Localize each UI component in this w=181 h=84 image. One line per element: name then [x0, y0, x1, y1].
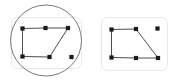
graph-node: [109, 27, 113, 31]
graph-node-isolated: [69, 55, 73, 59]
graph-panel-plain: [102, 18, 168, 71]
graph-edge: [112, 29, 137, 30]
graph-node: [66, 26, 70, 30]
graph-node: [20, 54, 24, 58]
graph-node: [43, 26, 47, 30]
graph-node: [134, 56, 138, 60]
graph-edge: [23, 28, 46, 29]
graph-edge: [112, 58, 137, 59]
graph-edge: [23, 57, 50, 58]
graph-node: [47, 55, 51, 59]
graph-node: [134, 27, 138, 31]
graph-node: [20, 26, 24, 30]
graph-node-isolated: [155, 26, 159, 30]
graph-node: [156, 56, 160, 60]
graph-figure: [0, 0, 181, 84]
graph-node: [109, 55, 113, 59]
figure-canvas: [0, 0, 181, 84]
